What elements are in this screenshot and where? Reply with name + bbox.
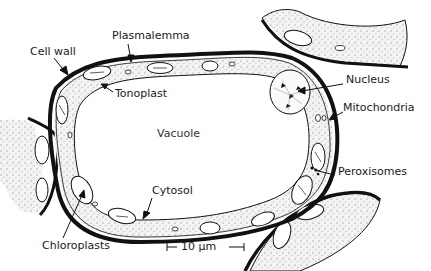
label-tonoplast: Tonoplast: [115, 88, 167, 99]
plant-cell-diagram: Plasmalemma Cell wall Tonoplast Vacuole …: [0, 0, 431, 271]
label-plasmalemma: Plasmalemma: [112, 30, 190, 41]
label-nucleus: Nucleus: [346, 74, 390, 85]
neighbor-cell-top-right: [262, 10, 408, 67]
label-peroxisomes: Peroxisomes: [338, 166, 407, 177]
label-chloroplasts: Chloroplasts: [42, 240, 110, 251]
label-cell-wall: Cell wall: [30, 46, 76, 57]
label-mitochondria: Mitochondria: [343, 102, 415, 113]
cell-illustration: [0, 0, 431, 271]
label-cytosol: Cytosol: [152, 185, 193, 196]
scale-bar-label: 10 µm: [181, 241, 216, 252]
label-vacuole: Vacuole: [157, 128, 200, 139]
